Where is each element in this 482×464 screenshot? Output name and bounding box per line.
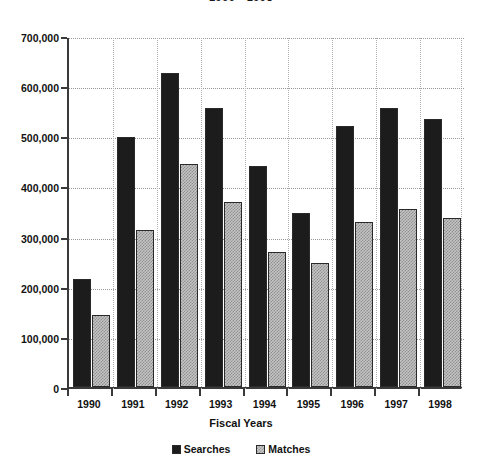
legend-label: Matches (268, 443, 310, 455)
bar-matches-1997 (399, 209, 417, 387)
x-axis-tick-label-1998: 1998 (410, 398, 470, 410)
legend-item-searches[interactable]: Searches (172, 443, 231, 455)
legend-label: Searches (184, 443, 231, 455)
y-axis-tick-label: 200,000 (0, 283, 59, 295)
bar-group (113, 36, 157, 387)
x-axis-tick-mark (67, 389, 69, 396)
y-axis-tick-label: 600,000 (0, 82, 59, 94)
x-axis-tick-mark (111, 389, 113, 396)
y-axis-tick-label: 400,000 (0, 182, 59, 194)
chart-title: 1990 - 1998 (0, 0, 482, 3)
bar-chart: 1990 - 1998 0100,000200,000300,000400,00… (0, 0, 482, 464)
x-axis-title: Fiscal Years (0, 417, 482, 429)
x-axis-tick-mark (374, 389, 376, 396)
bar-group (69, 36, 113, 387)
bar-group (420, 36, 464, 387)
bar-matches-1995 (311, 263, 329, 387)
bar-matches-1992 (180, 164, 198, 387)
y-axis-tick-label: 700,000 (0, 32, 59, 44)
y-axis-tick-label: 300,000 (0, 233, 59, 245)
x-axis-tick-mark (243, 389, 245, 396)
bar-searches-1992 (161, 73, 179, 387)
y-axis-tick-label: 0 (0, 383, 59, 395)
x-axis-tick-mark (286, 389, 288, 396)
bar-searches-1990 (73, 279, 91, 387)
x-axis-tick-mark (418, 389, 420, 396)
bar-searches-1998 (424, 119, 442, 387)
legend-item-matches[interactable]: Matches (256, 443, 310, 455)
x-axis-tick-mark (155, 389, 157, 396)
y-axis-tick-label: 100,000 (0, 333, 59, 345)
bar-matches-1994 (268, 252, 286, 387)
black-square-icon (172, 445, 181, 454)
chart-legend: SearchesMatches (0, 443, 482, 455)
bar-matches-1996 (355, 222, 373, 387)
bar-searches-1995 (292, 213, 310, 387)
bar-group (376, 36, 420, 387)
bar-matches-1991 (136, 230, 154, 387)
bar-searches-1991 (117, 137, 135, 387)
bar-matches-1993 (224, 202, 242, 387)
x-axis-tick-mark (199, 389, 201, 396)
gray-square-icon (256, 445, 265, 454)
bar-searches-1994 (249, 166, 267, 387)
bar-group (245, 36, 289, 387)
bar-matches-1990 (92, 315, 110, 387)
y-axis-tick-label: 500,000 (0, 132, 59, 144)
bar-group (157, 36, 201, 387)
bar-group (288, 36, 332, 387)
bar-group (332, 36, 376, 387)
bar-searches-1997 (380, 108, 398, 387)
bar-matches-1998 (443, 218, 461, 387)
bar-searches-1996 (336, 126, 354, 387)
x-axis-tick-mark (330, 389, 332, 396)
plot-area (67, 38, 462, 389)
bar-searches-1993 (205, 108, 223, 387)
bar-group (201, 36, 245, 387)
